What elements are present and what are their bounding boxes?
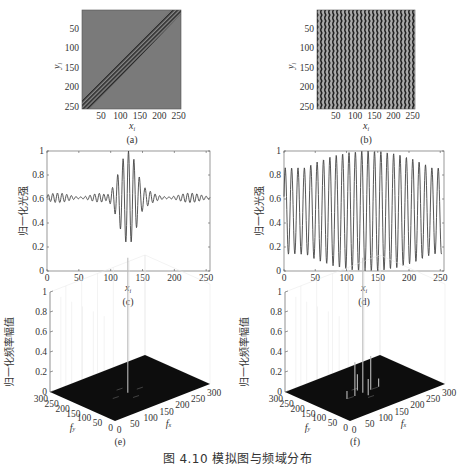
z-tick-label: 1: [277, 287, 282, 297]
panel-e: 归一化频率幅值 (e) 00.20.40.60.8105010015020025…: [3, 255, 221, 448]
z-axis-label-f: 归一化频率幅值: [238, 317, 250, 387]
x-tick-label: 200: [386, 111, 401, 121]
x-tick-label: 250: [172, 111, 187, 121]
x-tick-label: 250: [199, 273, 214, 283]
x-tick-label: 50: [331, 111, 341, 121]
fy-tick-label: 300: [269, 394, 284, 404]
z-tick-label: 0.4: [270, 347, 282, 357]
fx-tick-label: 150: [394, 407, 409, 417]
x-tick-label: 100: [348, 111, 363, 121]
y-axis-label-d: 归一化光强: [253, 186, 265, 236]
z-tick-label: 0.8: [35, 307, 47, 317]
panel-label-f: (f): [350, 436, 360, 448]
x-tick-label: 50: [96, 111, 106, 121]
y-tick-label: 200: [300, 82, 315, 92]
fx-tick-label: 200: [410, 400, 425, 410]
x-tick-label: 200: [167, 273, 182, 283]
x-tick-label: 150: [371, 273, 386, 283]
y-tick-label: 0.2: [269, 242, 281, 252]
y-tick-label: 100: [300, 43, 315, 53]
y-tick-label: 50: [70, 24, 80, 34]
x-axis-label-b: xi: [362, 120, 369, 132]
panel-d: 05010015020025000.20.40.60.81 归一化光强 xi (…: [253, 146, 448, 308]
y-axis-label-c: 归一化光强: [17, 186, 29, 236]
fx-tick-label: 250: [191, 394, 206, 404]
y-tick-label: 50: [305, 24, 315, 34]
x-tick-label: 200: [402, 273, 417, 283]
y-tick-label: 100: [65, 43, 80, 53]
z-tick-label: 0.6: [270, 327, 282, 337]
x-axis-label-a: xi: [128, 120, 135, 132]
y-tick-label: 1: [39, 146, 44, 156]
y-tick-label: 0.4: [269, 218, 281, 228]
panel-c: 05010015020025000.20.40.60.81 归一化光强 xi (…: [17, 146, 214, 308]
y-tick-label: 0: [276, 266, 281, 276]
y-tick-label: 250: [300, 102, 315, 112]
x-tick-label: 250: [406, 111, 421, 121]
fx-tick-label: 0: [352, 425, 357, 435]
panel-label-e: (e): [114, 436, 125, 448]
fy-axis-label: fy: [305, 422, 311, 433]
y-tick-label: 250: [65, 102, 80, 112]
y-tick-label: 0.2: [32, 242, 44, 252]
fy-tick-label: 50: [93, 418, 103, 428]
fy-axis-label: fy: [70, 422, 76, 433]
panel-b: 5010015020025050100150200250 xi yi (b): [285, 10, 420, 146]
x-tick-label: 100: [339, 273, 354, 283]
fy-tick-label: 0: [343, 423, 348, 433]
x-axis-label-d: xi: [360, 282, 367, 294]
fx-tick-label: 300: [207, 388, 222, 398]
fx-tick-label: 100: [379, 413, 394, 423]
y-tick-label: 150: [300, 63, 315, 73]
x-tick-label: 150: [367, 111, 382, 121]
fy-tick-label: 0: [108, 423, 113, 433]
y-tick-label: 0.6: [32, 194, 44, 204]
y-tick-label: 0: [39, 266, 44, 276]
x-tick-label: 250: [433, 273, 448, 283]
x-tick-label: 200: [152, 111, 167, 121]
z-axis-label-e: 归一化频率幅值: [3, 317, 15, 387]
z-tick-label: 0.6: [35, 327, 47, 337]
panel-f: 归一化频率幅值 (f) 00.20.40.60.8105010015020025…: [238, 255, 456, 448]
y-axis-label-b: yi: [285, 63, 297, 70]
z-tick-label: 0.2: [270, 367, 282, 377]
fy-tick-label: 300: [34, 394, 49, 404]
x-tick-label: 50: [74, 273, 84, 283]
x-tick-label: 150: [135, 273, 150, 283]
fx-tick-label: 0: [117, 425, 122, 435]
z-tick-label: 0.2: [35, 367, 47, 377]
y-tick-label: 200: [65, 82, 80, 92]
y-tick-label: 0.4: [32, 218, 44, 228]
y-tick-label: 0.8: [32, 170, 44, 180]
z-tick-label: 0.4: [35, 347, 47, 357]
fx-tick-label: 300: [442, 388, 457, 398]
image-b: [317, 10, 415, 109]
z-tick-label: 1: [42, 287, 47, 297]
y-tick-label: 0.8: [269, 170, 281, 180]
fx-axis-label: fx: [166, 418, 172, 429]
panel-label-a: (a): [126, 134, 137, 146]
x-tick-label: 0: [45, 273, 50, 283]
fy-tick-label: 50: [328, 418, 338, 428]
y-axis-label-a: yi: [51, 63, 63, 70]
z-tick-label: 0.8: [270, 307, 282, 317]
fx-tick-label: 200: [175, 400, 190, 410]
fx-axis-label: fx: [401, 418, 407, 429]
x-tick-label: 150: [133, 111, 148, 121]
y-tick-label: 150: [65, 63, 80, 73]
fx-tick-label: 50: [130, 419, 140, 429]
figure-caption: 图 4.10 模拟图与频域分布: [0, 449, 475, 466]
x-tick-label: 0: [282, 273, 287, 283]
fx-tick-label: 150: [159, 407, 174, 417]
fx-tick-label: 50: [365, 419, 375, 429]
x-tick-label: 100: [104, 273, 119, 283]
panel-a: 5010015020025050100150200250 xi yi (a): [51, 10, 186, 146]
x-tick-label: 100: [113, 111, 128, 121]
fx-tick-label: 100: [144, 413, 159, 423]
y-tick-label: 0.6: [269, 194, 281, 204]
y-tick-label: 1: [276, 146, 281, 156]
panel-label-b: (b): [360, 134, 372, 146]
fx-tick-label: 250: [426, 394, 441, 404]
